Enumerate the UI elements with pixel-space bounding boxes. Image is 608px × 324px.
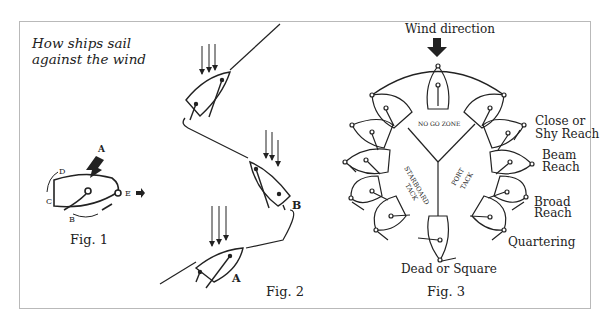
fig3-boat-head-to-wind [427, 64, 449, 109]
fig2-wind-arrows-top [202, 44, 215, 74]
fig3-starboard-boats [343, 93, 412, 240]
fig1-label-b: B [69, 215, 75, 224]
fig2-caption: Fig. 2 [266, 284, 304, 299]
fig2-boat-top [186, 72, 230, 120]
fig3-no-go-label: NO GO ZONE [418, 120, 460, 127]
fig2-label-a: A [231, 272, 241, 285]
fig3-label-dead: Dead or Square [401, 262, 497, 276]
fig3-port-boats [464, 93, 534, 240]
fig1-label-a: A [97, 144, 106, 154]
fig3-label-broad-line2: Reach [534, 206, 572, 220]
fig3-boat-dead-downwind [418, 216, 456, 262]
fig3-label-close-line2: Shy Reach [535, 127, 600, 141]
fig3-label-quartering: Quartering [508, 235, 576, 249]
fig1-label-d: D [59, 167, 65, 176]
fig3-wind-label: Wind direction [405, 22, 495, 36]
fig2-wind-arrows-b [266, 130, 278, 166]
fig2-course-line [160, 24, 294, 284]
fig1-caption: Fig. 1 [70, 232, 108, 247]
fig3-wind-arrow-icon [427, 38, 447, 57]
fig2-label-b: B [292, 199, 301, 212]
fig2-boat-b [250, 162, 290, 210]
fig1-label-e: E [125, 189, 131, 198]
fig1-e-arrow-icon [136, 188, 145, 198]
fig1-label-c: C [46, 197, 52, 206]
fig3-caption: Fig. 3 [427, 284, 465, 299]
fig3-label-beam-line2: Reach [542, 160, 580, 174]
fig3-tack-lines [408, 124, 475, 216]
fig2-wind-arrows-a [212, 206, 226, 246]
fig1-boat [47, 172, 121, 217]
diagram-canvas: A B C D E Fig. 1 [0, 0, 608, 324]
fig3-label-close-line1: Close or [535, 114, 586, 128]
